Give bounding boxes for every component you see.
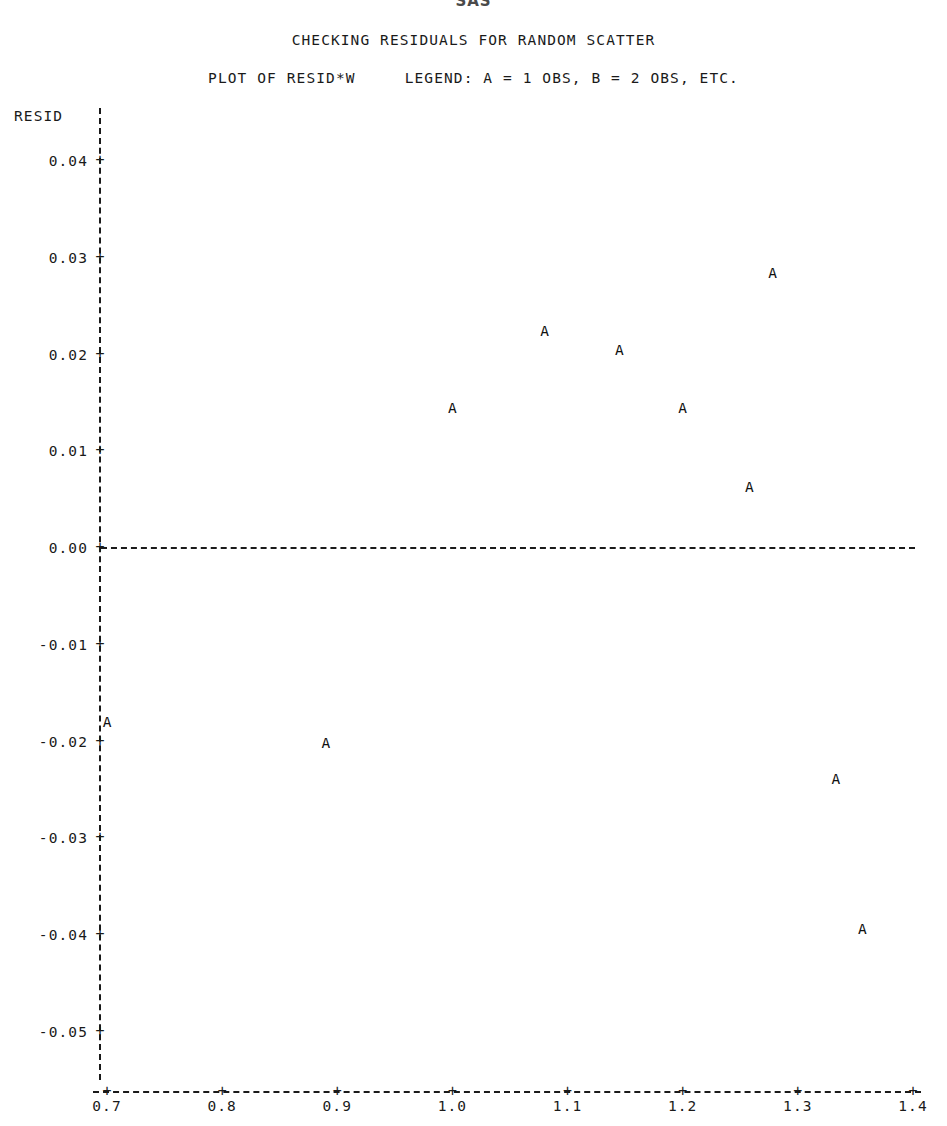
y-axis-tick-mark: +: [93, 734, 107, 749]
y-axis-tick-label: -0.04: [0, 928, 88, 943]
y-axis-tick-label-wrap: -0.05: [0, 1025, 88, 1039]
y-axis-tick-label: 0.02: [0, 348, 88, 363]
y-axis-tick-mark: +: [93, 637, 107, 652]
x-axis-tick-label: 1.4: [883, 1099, 943, 1114]
x-axis-tick-label: 0.8: [192, 1099, 252, 1114]
y-axis-tick-label: -0.05: [0, 1025, 88, 1040]
y-axis-tick-mark: +: [93, 250, 107, 265]
x-axis-tick-mark: +: [906, 1084, 920, 1099]
y-axis-tick-label-wrap: -0.01: [0, 638, 88, 652]
y-axis-tick-label: -0.03: [0, 831, 88, 846]
y-axis-tick-label-wrap: -0.04: [0, 928, 88, 942]
sas-plot-page: SAS CHECKING RESIDUALS FOR RANDOM SCATTE…: [0, 0, 947, 1126]
x-axis-tick-mark: +: [791, 1084, 805, 1099]
x-axis-tick-label: 0.9: [307, 1099, 367, 1114]
y-axis-tick-label-wrap: 0.01: [0, 444, 88, 458]
page-title: CHECKING RESIDUALS FOR RANDOM SCATTER: [0, 32, 947, 48]
x-axis-tick-mark: +: [561, 1084, 575, 1099]
x-axis-tick-mark: +: [445, 1084, 459, 1099]
y-axis-tick-label: 0.04: [0, 154, 88, 169]
y-axis-tick-label: 0.00: [0, 541, 88, 556]
x-axis-tick-label: 1.1: [538, 1099, 598, 1114]
scatter-point-marker: A: [830, 772, 842, 787]
x-axis-tick-label: 1.2: [653, 1099, 713, 1114]
x-axis-tick-mark: +: [676, 1084, 690, 1099]
y-axis-tick-mark: +: [93, 927, 107, 942]
y-axis-tick-label: 0.01: [0, 444, 88, 459]
scatter-point-marker: A: [446, 401, 458, 416]
y-axis-tick-label: -0.02: [0, 735, 88, 750]
y-axis-label: RESID: [14, 108, 63, 124]
y-axis-tick-label-wrap: 0.04: [0, 154, 88, 168]
scatter-point-marker: A: [613, 343, 625, 358]
sas-banner: SAS: [0, 0, 947, 10]
x-axis-tick-mark: +: [330, 1084, 344, 1099]
y-axis-tick-mark: +: [93, 443, 107, 458]
y-axis-tick-label-wrap: 0.00: [0, 541, 88, 555]
x-axis-tick-label: 1.3: [768, 1099, 828, 1114]
y-axis-tick-label: -0.01: [0, 638, 88, 653]
scatter-point-marker: A: [320, 736, 332, 751]
x-axis-tick-label: 1.0: [422, 1099, 482, 1114]
scatter-point-marker: A: [539, 324, 551, 339]
y-axis-tick-label-wrap: 0.02: [0, 348, 88, 362]
y-axis-tick-mark: +: [93, 830, 107, 845]
y-axis-tick-label-wrap: -0.02: [0, 735, 88, 749]
scatter-point-marker: A: [677, 401, 689, 416]
y-axis-tick-label-wrap: -0.03: [0, 831, 88, 845]
x-axis-tick-mark: +: [100, 1084, 114, 1099]
scatter-point-marker: A: [101, 715, 113, 730]
x-axis-tick-label: 0.7: [77, 1099, 137, 1114]
scatter-point-marker: A: [743, 480, 755, 495]
y-axis-tick-mark: +: [93, 153, 107, 168]
scatter-point-marker: A: [856, 922, 868, 937]
y-axis-tick-mark: +: [93, 347, 107, 362]
y-axis-tick-label: 0.03: [0, 251, 88, 266]
x-axis-tick-mark: +: [215, 1084, 229, 1099]
zero-reference-line: [101, 547, 915, 549]
y-axis-tick-label-wrap: 0.03: [0, 251, 88, 265]
plot-subtitle-legend: PLOT OF RESID*W LEGEND: A = 1 OBS, B = 2…: [0, 70, 947, 86]
scatter-point-marker: A: [767, 266, 779, 281]
y-axis-tick-mark: +: [93, 1024, 107, 1039]
